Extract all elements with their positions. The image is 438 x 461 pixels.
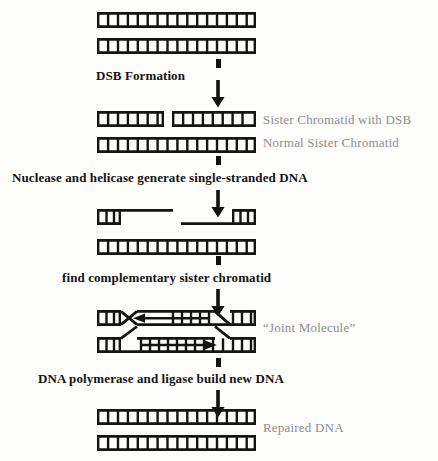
process-label-dsb-formation: DSB Formation [96,68,185,84]
stage-repaired-duplexes [97,409,259,451]
leftward-synthesis-arrow [133,314,209,323]
rightward-synthesis-arrow [141,340,217,349]
arrow-down-1 [211,80,225,112]
arrow-stub-3 [216,256,221,265]
stage-intact-duplexes [97,12,259,54]
process-label-find-complementary: find complementary sister chromatid [62,270,271,286]
diagram-canvas: DSB Formation [0,0,438,461]
stage-resected-duplex [97,209,259,255]
arrow-stub-1 [216,59,221,68]
stage-broken-duplex [97,111,259,153]
process-label-nuclease-helicase: Nuclease and helicase generate single-st… [12,170,308,186]
annotation-normal-sister-chromatid: Normal Sister Chromatid [263,135,399,151]
annotation-repaired-dna: Repaired DNA [263,420,344,436]
annotation-sister-chromatid-dsb: Sister Chromatid with DSB [263,112,411,128]
arrow-stub-2 [216,156,221,165]
annotation-joint-molecule: “Joint Molecule” [263,320,355,336]
stage-joint-molecule [97,310,259,354]
process-label-polymerase-ligase: DNA polymerase and ligase build new DNA [38,371,284,387]
arrow-stub-4 [216,358,221,367]
